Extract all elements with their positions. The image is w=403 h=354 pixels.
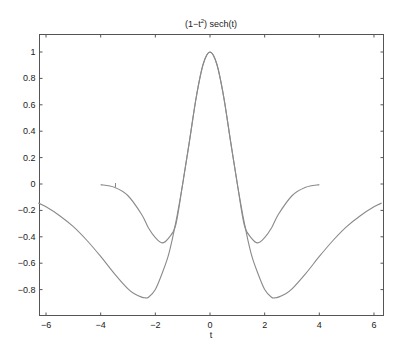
figure-background [0,0,403,354]
x-tick-label: −2 [150,320,160,330]
x-tick-label: 6 [371,320,376,330]
y-tick-label: −0.2 [18,205,36,215]
y-tick-label: 0.6 [23,100,36,110]
x-tick-label: −4 [96,320,106,330]
x-tick-label: 0 [207,320,212,330]
y-tick-label: 0.2 [23,153,36,163]
y-tick-label: −0.8 [18,285,36,295]
x-tick-label: −6 [41,320,51,330]
y-tick-label: 0.8 [23,73,36,83]
y-tick-label: 0 [30,179,35,189]
chart-title: (1−t2) sech(t) [185,18,237,29]
y-tick-label: 0.4 [23,126,36,136]
x-tick-label: 2 [262,320,267,330]
chart-figure: (1−t2) sech(t) −6−4−20246 −0.8−0.6−0.4−0… [0,0,403,354]
y-tick-label: −0.6 [18,258,36,268]
y-tick-label: 1 [30,47,35,57]
y-tick-label: −0.4 [18,232,36,242]
x-tick-label: 4 [317,320,322,330]
